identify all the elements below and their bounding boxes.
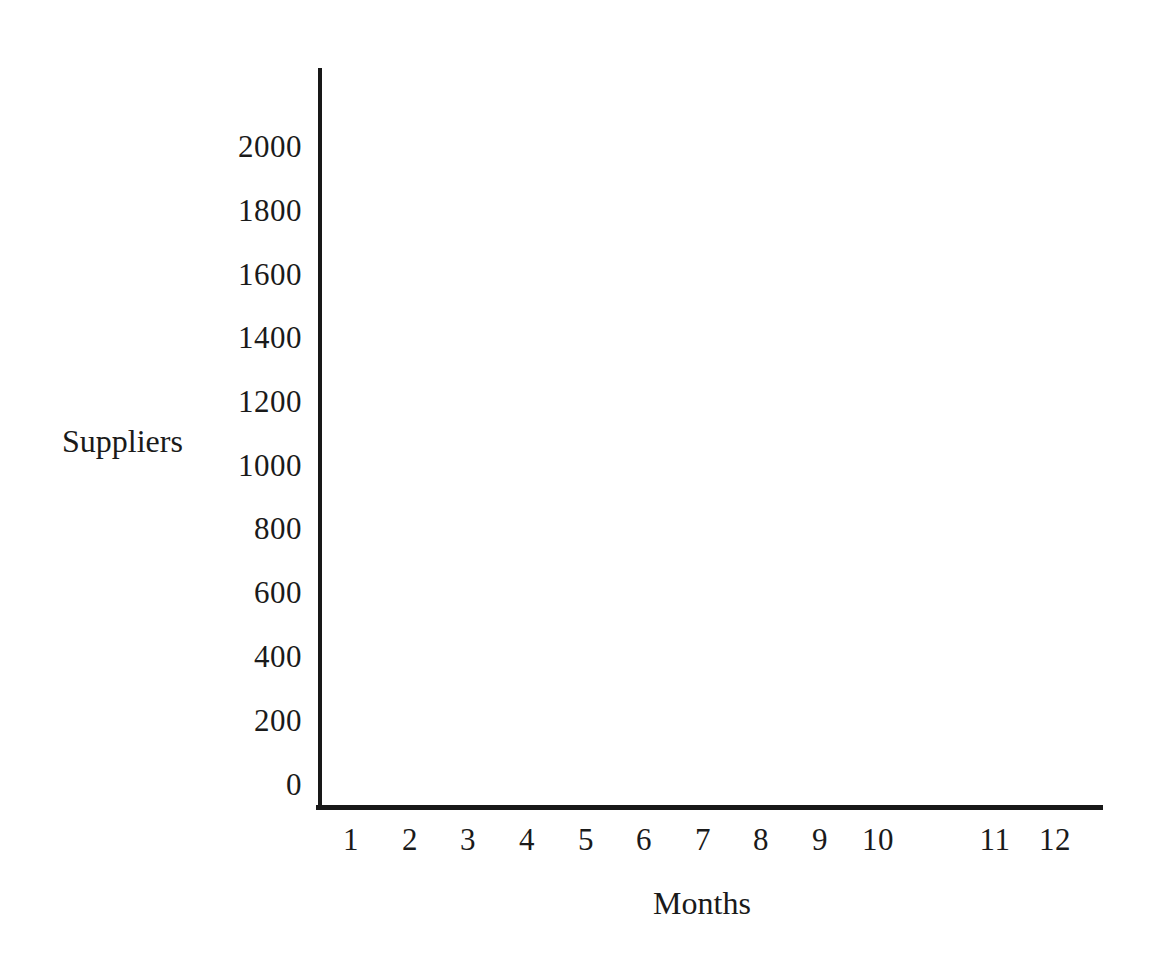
- x-axis-tick-label: 2: [380, 824, 440, 855]
- x-axis-tick-label: 6: [614, 824, 674, 855]
- y-axis-line: [318, 68, 322, 810]
- y-axis-tick-label: 0: [102, 769, 302, 800]
- chart-figure: 2000 1800 1600 1400 1200 1000 800 600 40…: [0, 0, 1164, 968]
- y-axis-tick-label: 400: [102, 641, 302, 672]
- y-axis-tick-label: 200: [102, 705, 302, 736]
- x-axis-tick-label: 4: [497, 824, 557, 855]
- x-axis-tick-label: 9: [790, 824, 850, 855]
- y-axis-tick-label: 1600: [102, 259, 302, 290]
- x-axis-tick-label: 7: [673, 824, 733, 855]
- x-axis-tick-label: 11: [965, 824, 1025, 855]
- y-axis-tick-label: 2000: [102, 131, 302, 162]
- x-axis-tick-label: 12: [1025, 824, 1085, 855]
- x-axis-line: [316, 805, 1103, 810]
- x-axis-tick-label: 5: [556, 824, 616, 855]
- x-axis-tick-label: 1: [321, 824, 381, 855]
- x-axis-tick-label: 3: [438, 824, 498, 855]
- x-axis-tick-label: 10: [848, 824, 908, 855]
- x-axis-tick-label: 8: [731, 824, 791, 855]
- y-axis-tick-label: 800: [102, 513, 302, 544]
- y-axis-tick-label: 1400: [102, 322, 302, 353]
- y-axis-tick-label: 1800: [102, 195, 302, 226]
- y-axis-tick-label: 1200: [102, 386, 302, 417]
- plot-area: [322, 68, 1103, 805]
- y-axis-tick-label: 600: [102, 577, 302, 608]
- y-axis-title: Suppliers: [62, 424, 183, 458]
- x-axis-title: Months: [120, 886, 1164, 920]
